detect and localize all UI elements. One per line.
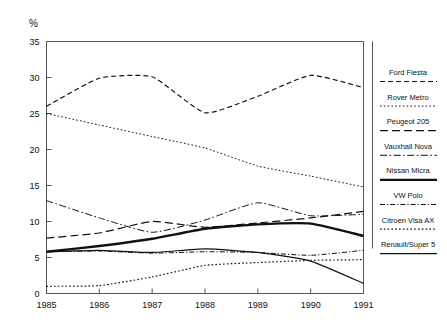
legend-label-citroen-visa-ax: Citroen Visa AX	[382, 216, 434, 225]
legend-label-vw-polo: VW Polo	[393, 191, 422, 200]
y-tick-label: 30	[29, 73, 39, 83]
chart-figure: % 05101520253035 19851986198719881989199…	[0, 0, 447, 326]
y-tick-label: 25	[29, 109, 39, 119]
legend-label-rover-metro: Rover Metro	[387, 93, 428, 102]
y-tick-label: 20	[29, 145, 39, 155]
y-tick-label: 0	[34, 289, 39, 299]
x-tick-label: 1991	[353, 300, 373, 310]
chart-background	[0, 0, 447, 326]
y-tick-label: 15	[29, 181, 39, 191]
legend-label-peugeot-205: Peugeot 205	[387, 117, 430, 126]
x-tick-label: 1989	[248, 300, 268, 310]
x-tick-label: 1987	[142, 300, 162, 310]
legend-label-nissan-micra: Nissan Micra	[386, 166, 430, 175]
legend-label-renault-super-5: Renault/Super 5	[381, 240, 435, 249]
line-chart: % 05101520253035 19851986198719881989199…	[0, 0, 447, 326]
y-tick-label: 5	[34, 253, 39, 263]
x-tick-label: 1985	[36, 300, 56, 310]
y-tick-label: 35	[29, 37, 39, 47]
legend-label-vauxhall-nova: Vauxhall Nova	[384, 142, 433, 151]
legend-label-ford-fiesta: Ford Fiesta	[389, 68, 428, 77]
y-axis-unit-label: %	[29, 18, 38, 29]
x-tick-label: 1986	[89, 300, 109, 310]
y-tick-label: 10	[29, 217, 39, 227]
x-tick-label: 1990	[301, 300, 321, 310]
x-tick-label: 1988	[195, 300, 215, 310]
